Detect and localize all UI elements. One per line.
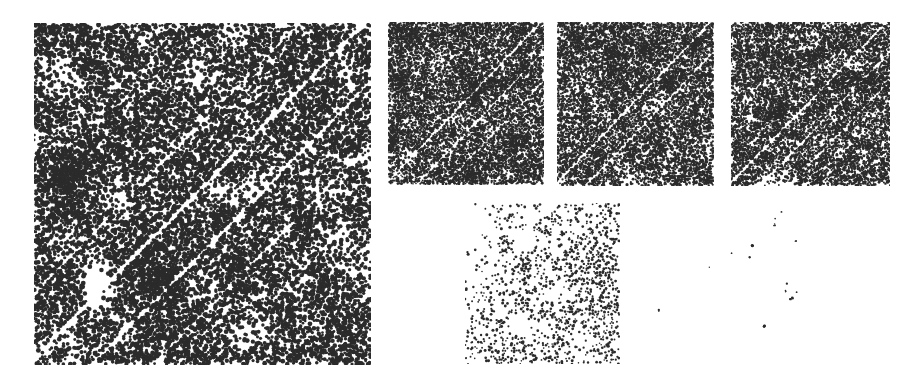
panel-main-dot-matrix <box>34 23 371 365</box>
speck-field-canvas <box>640 195 924 391</box>
panel-top-3-canvas <box>731 22 890 186</box>
panel-top-2-canvas <box>557 22 714 186</box>
panel-top-1-dot-matrix <box>388 22 544 185</box>
panel-top-2-dot-matrix <box>557 22 714 186</box>
panel-bottom-sparse-dot-matrix <box>465 203 620 364</box>
panel-top-1-canvas <box>388 22 544 185</box>
figure-root <box>0 0 924 391</box>
panel-top-3-dot-matrix <box>731 22 890 186</box>
panel-main-canvas <box>34 23 371 365</box>
panel-bottom-sparse-canvas <box>465 203 620 364</box>
speck-field-right <box>640 195 924 391</box>
